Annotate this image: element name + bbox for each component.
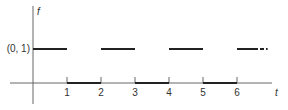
x-tick-label: 3 xyxy=(132,87,138,98)
x-tick-label: 1 xyxy=(64,87,70,98)
y-axis-label: f xyxy=(37,6,41,17)
signal-segments xyxy=(33,49,268,83)
x-axis-label: t xyxy=(275,87,279,98)
square-wave-chart: f t (0, 1) 123456 xyxy=(0,0,288,110)
y-tick-label: (0, 1) xyxy=(7,43,30,54)
x-ticks: 123456 xyxy=(64,77,240,98)
x-tick-label: 4 xyxy=(166,87,172,98)
x-tick-label: 5 xyxy=(200,87,206,98)
x-tick-label: 6 xyxy=(234,87,240,98)
axes xyxy=(10,6,272,104)
x-tick-label: 2 xyxy=(98,87,104,98)
